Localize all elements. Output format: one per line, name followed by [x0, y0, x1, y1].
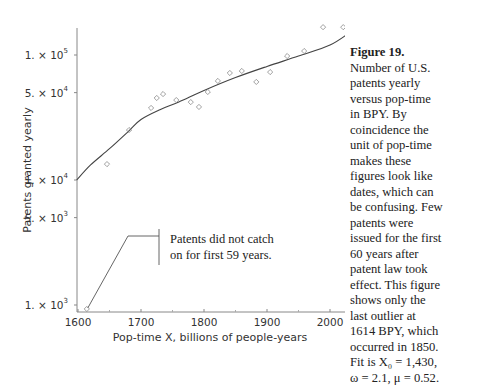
data-point	[227, 70, 232, 75]
y-tick-label: 1. × 103	[25, 297, 68, 311]
x-tick-label: 1900	[254, 316, 281, 328]
x-tick-label: 2000	[317, 316, 344, 328]
caption-line: Fit is X₀ = 1,430,	[350, 355, 478, 371]
y-tick-label: 1. × 105	[25, 47, 68, 61]
observed-series	[84, 25, 345, 312]
data-point	[302, 48, 307, 53]
caption-title: Figure 19.	[350, 45, 478, 61]
figure-caption: Figure 19. Number of U.S.patents yearlyv…	[350, 45, 478, 386]
data-point	[285, 53, 290, 58]
y-axis-label: Patents granted yearly	[21, 107, 34, 233]
caption-line: in BPY. By	[350, 107, 478, 123]
caption-line: 60 years after	[350, 247, 478, 263]
x-axis-label: Pop-time X, billions of people-years	[113, 331, 308, 344]
caption-line: occurred in 1850.	[350, 340, 478, 356]
data-point	[268, 69, 273, 74]
data-point	[239, 68, 244, 73]
data-point	[320, 25, 325, 30]
caption-line: makes these	[350, 154, 478, 170]
caption-line: dates, which can	[350, 185, 478, 201]
caption-line: 1614 BPY, which	[350, 324, 478, 340]
caption-line: issued for the first	[350, 231, 478, 247]
x-tick-label: 1800	[191, 316, 218, 328]
caption-line: figures look like	[350, 169, 478, 185]
annotation-line-1: Patents did not catch	[170, 232, 275, 246]
caption-line: unit of pop-time	[350, 138, 478, 154]
axes	[77, 28, 345, 312]
caption-line: Number of U.S.	[350, 61, 478, 77]
caption-body: Number of U.S.patents yearlyversus pop-t…	[350, 61, 478, 386]
caption-line: effect. This figure	[350, 278, 478, 294]
data-point	[254, 79, 259, 84]
annotation: Patents did not catch on for first 59 ye…	[88, 229, 275, 308]
patents-chart: 1. × 1055. × 1041. × 1045. × 1031. × 103…	[0, 0, 345, 353]
caption-line: versus pop-time	[350, 92, 478, 108]
caption-line: patent law took	[350, 262, 478, 278]
caption-line: shows only the	[350, 293, 478, 309]
data-point	[104, 162, 109, 167]
data-point	[341, 25, 345, 30]
data-point	[215, 78, 220, 83]
caption-line: coincidence the	[350, 123, 478, 139]
data-point	[188, 99, 193, 104]
y-tick-label: 5. × 104	[25, 85, 69, 99]
caption-line: patents yearly	[350, 76, 478, 92]
x-tick-label: 1600	[65, 316, 92, 328]
data-point	[196, 104, 201, 109]
data-point	[160, 91, 165, 96]
caption-line: ω = 2.1, μ = 0.52.	[350, 371, 478, 386]
data-point	[148, 105, 153, 110]
caption-line: patents were	[350, 216, 478, 232]
x-tick-label: 1700	[128, 316, 155, 328]
caption-line: be confusing. Few	[350, 200, 478, 216]
fit-series	[77, 32, 345, 180]
annotation-line-2: on for first 59 years.	[170, 248, 272, 262]
fit-curve	[77, 32, 345, 180]
annotation-leader-line	[88, 236, 159, 308]
data-point	[154, 95, 159, 100]
caption-line: last outlier at	[350, 309, 478, 325]
